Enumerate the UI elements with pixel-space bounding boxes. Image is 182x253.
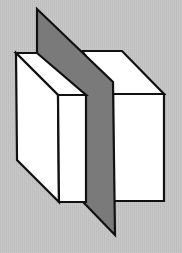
left-box-front-face bbox=[58, 95, 86, 202]
diagram-canvas bbox=[0, 0, 182, 253]
right-box-front-face bbox=[113, 94, 164, 201]
sliced-box-diagram bbox=[0, 0, 182, 253]
